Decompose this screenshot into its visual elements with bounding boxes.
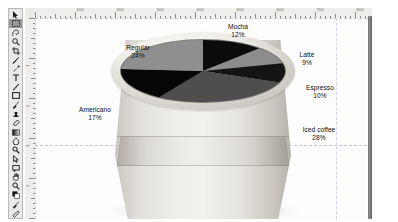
pie-label-regular-value: 24% (111, 52, 165, 60)
pie-label-espresso-value: 10% (291, 92, 349, 100)
healing-brush-tool[interactable] (9, 64, 22, 73)
ruler-label: 600 (277, 8, 284, 12)
move-tool[interactable] (9, 10, 22, 19)
crop-tool[interactable] (9, 46, 22, 55)
workspace-right-margin (372, 0, 398, 222)
shape-tool[interactable] (9, 91, 22, 100)
dodge-tool[interactable] (9, 146, 22, 155)
pie-label-espresso: Espresso 10% (291, 84, 349, 101)
ruler-label: 100 (77, 8, 84, 12)
pie-label-mocha-value: 12% (209, 31, 267, 39)
pie-label-americano: Americano 17% (63, 106, 127, 123)
pie-label-americano-name: Americano (63, 106, 127, 114)
document-canvas[interactable]: Mocha 12% Latte 9% Espresso 10% Iced cof… (35, 18, 367, 219)
hand-tool[interactable] (9, 173, 22, 182)
foreground-color-swatch[interactable] (9, 191, 22, 200)
ruler-label: 2 (26, 105, 30, 107)
brush-tool[interactable] (9, 100, 22, 109)
cup-ridge-line-bottom (117, 165, 289, 166)
cup-ridge-line-top (117, 136, 289, 137)
ruler-label: 4 (26, 185, 30, 187)
blur-tool[interactable] (9, 137, 22, 146)
ruler-label: 3 (26, 145, 30, 147)
ruler-label: 200 (117, 8, 124, 12)
gradient-tool[interactable] (9, 128, 22, 137)
ruler-label: 700 (317, 8, 324, 12)
pie-label-regular-name: Regular (111, 44, 165, 52)
ruler-label: 300 (157, 8, 164, 12)
eyedropper-tool[interactable] (9, 55, 22, 64)
pie-label-latte: Latte 9% (285, 51, 329, 68)
pie-label-regular: Regular 24% (111, 44, 165, 61)
path-select-tool[interactable] (9, 155, 22, 164)
screen-mode-tool[interactable] (9, 209, 22, 218)
ruler-label: 500 (237, 8, 244, 12)
pie-label-americano-value: 17% (63, 114, 127, 122)
pie-label-mocha-name: Mocha (209, 23, 267, 31)
zoom-tool[interactable] (9, 182, 22, 191)
ruler-label: 800 (357, 8, 364, 12)
clone-stamp-tool[interactable] (9, 110, 22, 119)
pie-label-iced-coffee-value: 28% (285, 134, 353, 142)
eraser-tool[interactable] (9, 119, 22, 128)
pie-label-espresso-name: Espresso (291, 84, 349, 92)
ruler-label: 1 (26, 65, 30, 67)
marquee-tool[interactable] (9, 19, 22, 28)
pie-label-latte-name: Latte (285, 51, 329, 59)
notes-tool[interactable] (9, 164, 22, 173)
pie-label-iced-coffee-name: Iced coffee (285, 126, 353, 134)
pen-tool[interactable] (9, 82, 22, 91)
pie-label-iced-coffee: Iced coffee 28% (285, 126, 353, 143)
ruler-label: 400 (197, 8, 204, 12)
pie-label-mocha: Mocha 12% (209, 23, 267, 40)
pie-label-latte-value: 9% (285, 59, 329, 67)
type-tool[interactable] (9, 73, 22, 82)
application-window: 100200300400500600700800 12345 Mocha 12% (0, 0, 398, 222)
cup-ridge-band (115, 136, 291, 166)
tools-palette[interactable] (8, 8, 23, 219)
quick-mask-tool[interactable] (9, 200, 22, 209)
lasso-tool[interactable] (9, 28, 22, 37)
magic-wand-tool[interactable] (9, 37, 22, 46)
